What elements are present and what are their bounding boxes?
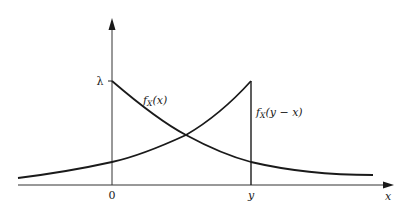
diagram-canvas: λ 0 y x fX(x) fX(y − x) [0, 0, 404, 209]
x-axis-label: x [385, 190, 392, 203]
x-axis-arrow-icon [383, 182, 394, 189]
curve-fx-y-minus-x [18, 81, 251, 178]
lambda-label: λ [97, 75, 104, 88]
curve-label-fx-x: fX(x) [142, 94, 167, 108]
curve-label-fx-y-minus-x: fX(y − x) [255, 106, 303, 120]
y-axis-arrow-icon [109, 18, 116, 30]
fx-x-arg: (x) [152, 94, 167, 107]
fx-yx-arg: (y − x) [265, 106, 302, 119]
curve-fx-x [112, 81, 373, 175]
y-tick-label: y [247, 189, 255, 202]
origin-label: 0 [109, 189, 116, 202]
